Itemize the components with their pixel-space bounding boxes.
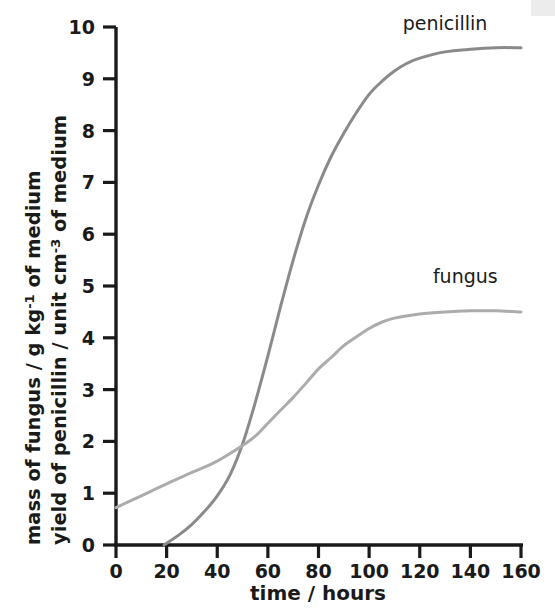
y-tick-label: 0 <box>82 534 95 556</box>
x-tick-label: 20 <box>153 560 179 582</box>
x-tick-label: 120 <box>400 560 440 582</box>
y-axis-title-line-1: mass of fungus / g kg-1 of medium <box>22 170 45 545</box>
corner-artifact <box>531 0 555 16</box>
x-axis-title: time / hours <box>250 581 386 605</box>
y-axis-title: mass of fungus / g kg-1 of medium yield … <box>22 115 71 545</box>
y-tick-label: 8 <box>82 120 95 142</box>
series-line-fungus <box>116 311 521 508</box>
x-tick-label: 140 <box>451 560 491 582</box>
series-layer <box>116 48 521 545</box>
series-line-penicillin <box>164 48 521 545</box>
x-tick-label: 0 <box>109 560 122 582</box>
y-axis-title-line-2: yield of penicillin / unit cm-3 of mediu… <box>48 115 71 545</box>
y-tick-label: 4 <box>82 327 95 349</box>
x-tick-label: 40 <box>204 560 230 582</box>
y-tick-label: 5 <box>82 275 95 297</box>
y-tick-label: 3 <box>82 379 95 401</box>
x-axis-ticks: 020406080100120140160 <box>109 545 540 582</box>
x-tick-label: 80 <box>305 560 331 582</box>
y-tick-label: 2 <box>82 430 95 452</box>
y-axis-ticks: 012345678910 <box>69 16 116 556</box>
series-label-fungus: fungus <box>433 265 498 287</box>
x-tick-label: 60 <box>255 560 281 582</box>
y-tick-label: 9 <box>82 68 95 90</box>
series-annotations: penicillinfungus <box>403 12 498 288</box>
y-tick-label: 1 <box>82 482 95 504</box>
x-tick-label: 100 <box>349 560 389 582</box>
line-chart: mass of fungus / g kg-1 of medium yield … <box>0 0 555 615</box>
y-tick-label: 7 <box>82 171 95 193</box>
y-tick-label: 10 <box>69 16 95 38</box>
x-tick-label: 160 <box>501 560 541 582</box>
y-tick-label: 6 <box>82 223 95 245</box>
series-label-penicillin: penicillin <box>403 12 488 34</box>
chart-figure: mass of fungus / g kg-1 of medium yield … <box>0 0 555 615</box>
